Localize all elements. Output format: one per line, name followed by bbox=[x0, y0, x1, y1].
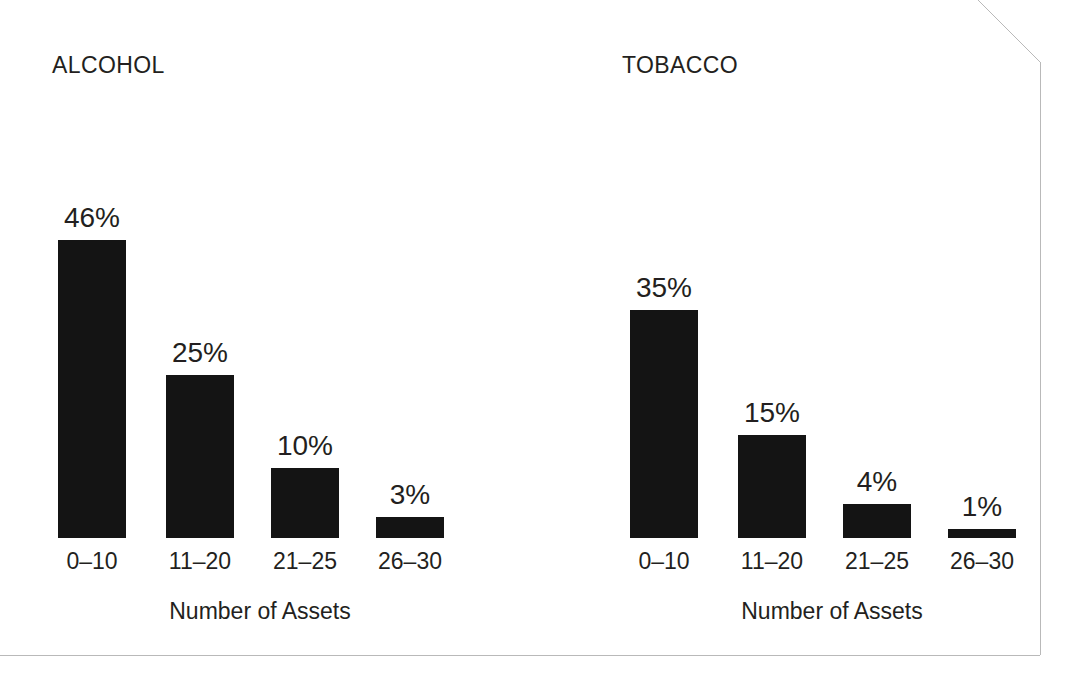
bar-slot: 10% bbox=[271, 140, 339, 538]
chart-page: ALCOHOL 46% 25% 10% 3% 0–10 11–20 21–25 bbox=[0, 0, 1076, 675]
x-axis-title-tobacco: Number of Assets bbox=[622, 598, 1042, 625]
chart-title-tobacco: TOBACCO bbox=[622, 52, 738, 79]
bar-value-label: 3% bbox=[390, 481, 430, 509]
bar-value-label: 15% bbox=[744, 399, 800, 427]
bar bbox=[948, 529, 1016, 538]
x-tick-label: 26–30 bbox=[948, 548, 1016, 575]
x-axis-ticks-alcohol: 0–10 11–20 21–25 26–30 bbox=[50, 548, 470, 582]
bar-slot: 25% bbox=[166, 140, 234, 538]
bar-slot: 1% bbox=[948, 140, 1016, 538]
x-tick-label: 26–30 bbox=[376, 548, 444, 575]
bar-slot: 15% bbox=[738, 140, 806, 538]
bar-value-label: 46% bbox=[64, 204, 120, 232]
chart-alcohol: ALCOHOL 46% 25% 10% 3% 0–10 11–20 21–25 bbox=[0, 0, 520, 675]
bar-slot: 3% bbox=[376, 140, 444, 538]
x-tick-label: 0–10 bbox=[58, 548, 126, 575]
bar bbox=[843, 504, 911, 538]
bar-value-label: 25% bbox=[172, 339, 228, 367]
bar-value-label: 1% bbox=[962, 493, 1002, 521]
bar-slot: 35% bbox=[630, 140, 698, 538]
bar-slot: 46% bbox=[58, 140, 126, 538]
bar bbox=[166, 375, 234, 538]
x-tick-label: 0–10 bbox=[630, 548, 698, 575]
plot-area-tobacco: 35% 15% 4% 1% bbox=[622, 140, 1042, 538]
chart-title-alcohol: ALCOHOL bbox=[52, 52, 165, 79]
bar-value-label: 35% bbox=[636, 274, 692, 302]
x-tick-label: 21–25 bbox=[843, 548, 911, 575]
bar bbox=[738, 435, 806, 538]
bar-value-label: 10% bbox=[277, 432, 333, 460]
x-tick-label: 11–20 bbox=[738, 548, 806, 575]
bar bbox=[630, 310, 698, 538]
x-axis-ticks-tobacco: 0–10 11–20 21–25 26–30 bbox=[622, 548, 1042, 582]
bar bbox=[271, 468, 339, 538]
bar-value-label: 4% bbox=[857, 468, 897, 496]
x-axis-title-alcohol: Number of Assets bbox=[50, 598, 470, 625]
bar-slot: 4% bbox=[843, 140, 911, 538]
bar bbox=[376, 517, 444, 538]
chart-tobacco: TOBACCO 35% 15% 4% 1% 0–10 11–20 21–25 bbox=[580, 0, 1076, 675]
x-tick-label: 11–20 bbox=[166, 548, 234, 575]
bar bbox=[58, 240, 126, 538]
plot-area-alcohol: 46% 25% 10% 3% bbox=[50, 140, 470, 538]
x-tick-label: 21–25 bbox=[271, 548, 339, 575]
